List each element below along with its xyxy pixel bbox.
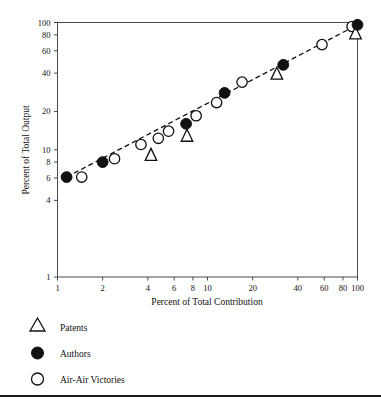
data-point-open-triangle (181, 129, 193, 141)
x-axis-tick-labels: 124681020406080100 (55, 283, 364, 293)
y-axis-title: Percent of Total Output (21, 105, 31, 194)
x-tick-label: 10 (203, 283, 212, 293)
y-tick-label: 10 (42, 145, 51, 155)
data-point-filled-circle (219, 87, 230, 98)
x-tick-label: 2 (101, 283, 105, 293)
legend-item-air-air-victories: Air-Air Victories (32, 373, 126, 385)
legend-label-air-air-victories: Air-Air Victories (60, 375, 125, 385)
data-point-open-circle (191, 111, 201, 121)
legend-item-authors: Authors (32, 347, 91, 359)
plot-frame (58, 23, 358, 278)
x-tick-label: 6 (172, 283, 176, 293)
figure-container: 124681020406080100 14681020406080100 Per… (0, 0, 381, 405)
x-tick-label: 40 (294, 283, 303, 293)
y-tick-label: 6 (46, 173, 50, 183)
y-tick-label: 100 (38, 18, 51, 28)
x-tick-label: 80 (339, 283, 348, 293)
x-axis-ticks (58, 277, 358, 281)
data-point-open-circle (153, 133, 163, 143)
y-tick-label: 4 (46, 195, 51, 205)
open-triangle-icon (30, 318, 45, 331)
series-air-air-victories (77, 21, 358, 182)
x-tick-label: 100 (351, 283, 364, 293)
data-point-open-circle (163, 126, 173, 136)
x-tick-label: 8 (191, 283, 195, 293)
data-point-open-circle (77, 172, 87, 182)
data-point-filled-circle (278, 59, 289, 70)
y-tick-label: 40 (42, 68, 51, 78)
data-point-open-circle (109, 154, 119, 164)
filled-circle-icon (32, 347, 44, 359)
legend-item-patents: Patents (30, 318, 88, 333)
data-point-open-circle (237, 77, 247, 87)
y-tick-label: 1 (46, 272, 50, 282)
scatter-chart: 124681020406080100 14681020406080100 Per… (0, 0, 381, 405)
x-tick-label: 60 (320, 283, 329, 293)
chart-legend: Patents Authors Air-Air Victories (30, 318, 125, 385)
data-point-open-circle (211, 97, 221, 107)
data-point-open-triangle (145, 148, 157, 160)
data-point-filled-circle (61, 172, 72, 183)
data-point-filled-circle (181, 118, 192, 129)
data-point-open-circle (136, 139, 146, 149)
series-patents (145, 27, 361, 161)
x-axis-title: Percent of Total Contribution (151, 297, 263, 307)
legend-label-authors: Authors (60, 349, 91, 359)
y-tick-label: 80 (42, 30, 51, 40)
x-tick-label: 20 (248, 283, 257, 293)
open-circle-icon (32, 373, 44, 385)
data-point-filled-circle (97, 157, 108, 168)
data-point-filled-circle (352, 19, 363, 30)
x-tick-label: 1 (55, 283, 59, 293)
legend-label-patents: Patents (60, 323, 88, 333)
y-axis-tick-labels: 14681020406080100 (38, 18, 52, 283)
y-tick-label: 8 (46, 157, 50, 167)
y-axis-ticks (54, 23, 58, 278)
y-tick-label: 60 (42, 46, 51, 56)
x-tick-label: 4 (146, 283, 151, 293)
y-tick-label: 20 (42, 106, 51, 116)
data-point-open-circle (317, 39, 327, 49)
